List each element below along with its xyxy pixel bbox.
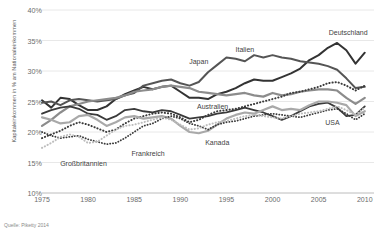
series-label-kanada: Kanada <box>205 138 229 145</box>
series-label-frankreich: Frankreich <box>132 149 165 156</box>
series-label-japan: Japan <box>189 58 208 65</box>
series-label-usa: USA <box>325 119 339 126</box>
source-caption: Quelle: Piketty 2014 <box>4 222 49 228</box>
capital-income-share-chart: Kapitaleinkommen in % am Nationaleinkomm… <box>0 0 377 228</box>
series-label-italien: Italien <box>236 46 255 53</box>
series-label-grossbritannien: Großbritannien <box>60 159 107 166</box>
series-annotations: DeutschlandItalienJapanAustralienUSAKana… <box>0 0 377 228</box>
series-label-deutschland: Deutschland <box>329 28 368 35</box>
series-label-australien: Australien <box>197 103 228 110</box>
